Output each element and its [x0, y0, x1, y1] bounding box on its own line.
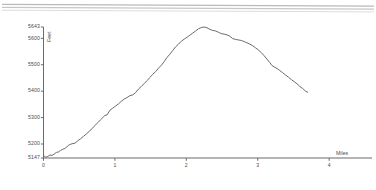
y-axis-title: Feet — [47, 32, 52, 42]
x-tick-label: 2 — [179, 163, 193, 168]
x-tick-label: 4 — [322, 163, 336, 168]
y-tick-label: 5643 — [14, 24, 40, 29]
y-tick-label: 5147 — [14, 155, 40, 160]
y-tick-label: 5200 — [14, 141, 40, 146]
y-tick-label: 5300 — [14, 115, 40, 120]
y-tick-label: 5600 — [14, 36, 40, 41]
x-tick-label: 0 — [37, 163, 51, 168]
x-axis-title: Miles — [336, 151, 348, 156]
x-tick-label: 3 — [251, 163, 265, 168]
elevation-profile-chart: 5147520053005400550056005643 01234 Feet … — [0, 0, 376, 190]
plot-area — [0, 0, 376, 190]
y-tick-label: 5500 — [14, 62, 40, 67]
x-tick-label: 1 — [108, 163, 122, 168]
elevation-line — [44, 27, 308, 157]
y-tick-label: 5400 — [14, 88, 40, 93]
